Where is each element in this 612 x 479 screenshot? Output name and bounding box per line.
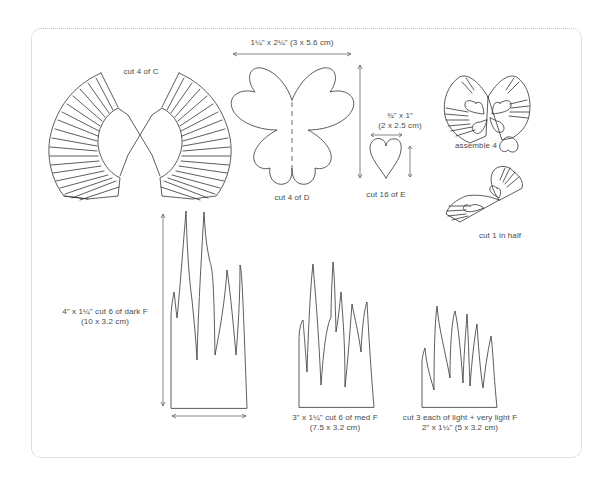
- piece-c-shape: [49, 73, 231, 200]
- piece-f-dark-dimension-arrows: [161, 214, 246, 418]
- piece-c-label: cut 4 of C: [111, 67, 171, 77]
- piece-f-light-label-line2: 2" x 1¼" (5 x 3.2 cm): [395, 423, 525, 433]
- piece-f-dark-label-line1: 4" x 1¼" cut 6 of dark F: [50, 307, 160, 317]
- cut-half-label: cut 1 in half: [470, 231, 530, 241]
- piece-e-dimension-line2: (2 x 2.5 cm): [370, 121, 430, 131]
- piece-f-med-label-line2: (7.5 x 3.2 cm): [280, 423, 390, 433]
- piece-f-med-label-line1: 3" x 1¼" cut 6 of med F: [280, 413, 390, 423]
- piece-f-light-label-line1: cut 3 each of light + very light F: [395, 413, 525, 423]
- piece-d-label: cut 4 of D: [262, 193, 322, 203]
- piece-d-shape: [231, 68, 354, 185]
- piece-e-label: cut 16 of E: [356, 190, 416, 200]
- piece-f-med-shape: [299, 262, 374, 407]
- piece-f-dark-label-line2: (10 x 3.2 cm): [50, 317, 160, 327]
- piece-f-dark-shape: [171, 211, 247, 408]
- piece-f-light-shape: [422, 306, 497, 407]
- piece-d-dimension-label: 1¼" x 2¼" (3 x 5.6 cm): [232, 38, 352, 48]
- piece-e-shape: [370, 133, 412, 178]
- piece-e-dimension-line1: ¾" x 1": [370, 111, 430, 121]
- piece-d-dimension-arrows: [233, 52, 362, 178]
- half-flower-diagram: [446, 166, 523, 222]
- assemble-label: assemble 4: [446, 141, 506, 151]
